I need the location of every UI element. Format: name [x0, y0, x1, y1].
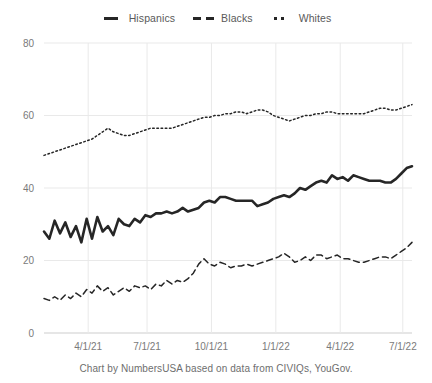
gridlines — [44, 43, 412, 333]
chart-caption: Chart by NumbersUSA based on data from C… — [0, 363, 432, 374]
x-tick-label: 4/1/22 — [326, 341, 354, 352]
series-line-whites — [44, 105, 412, 156]
y-tick-label: 80 — [23, 38, 35, 49]
x-tick-label: 1/1/22 — [262, 341, 290, 352]
y-tick-label: 60 — [23, 110, 35, 121]
series-line-hispanics — [44, 166, 412, 242]
y-tick-label: 40 — [23, 183, 35, 194]
y-tick-label: 0 — [28, 328, 34, 339]
x-tick-label: 10/1/21 — [195, 341, 229, 352]
data-series-group — [44, 105, 412, 301]
x-tick-label: 7/1/21 — [133, 341, 161, 352]
x-tick-label: 7/1/22 — [389, 341, 417, 352]
chart-container: Hispanics Blacks Whites 020406080 4/1/21… — [0, 0, 432, 383]
y-axis-ticks: 020406080 — [23, 38, 35, 339]
x-axis-ticks: 4/1/217/1/2110/1/211/1/224/1/227/1/22 — [74, 341, 417, 352]
x-tick-label: 4/1/21 — [74, 341, 102, 352]
y-tick-label: 20 — [23, 255, 35, 266]
series-line-blacks — [44, 242, 412, 300]
chart-plot-area: 020406080 4/1/217/1/2110/1/211/1/224/1/2… — [0, 0, 432, 360]
